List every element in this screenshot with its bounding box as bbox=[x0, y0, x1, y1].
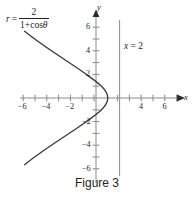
directrix-label: x = 2 bbox=[124, 42, 143, 52]
x-axis-label: x bbox=[184, 93, 188, 102]
equation-label: r = 2 1+cosθ bbox=[6, 7, 49, 30]
x-tick-label-neg2: −2 bbox=[65, 103, 74, 111]
y-tick-label-6: 6 bbox=[86, 23, 90, 31]
equation-denominator-prefix: 1+cos bbox=[20, 20, 43, 30]
equation-denominator: 1+cosθ bbox=[19, 19, 48, 30]
y-tick-label-2: 2 bbox=[86, 70, 90, 78]
x-tick-label-4: 4 bbox=[139, 103, 143, 111]
equation-fraction: 2 1+cosθ bbox=[19, 7, 48, 30]
x-tick-label-6: 6 bbox=[163, 103, 167, 111]
equation-lhs: r bbox=[6, 14, 10, 24]
directrix-value: = 2 bbox=[128, 41, 143, 51]
equation-numerator: 2 bbox=[27, 7, 40, 18]
equation-equals-sign: = bbox=[12, 14, 17, 24]
x-axis bbox=[20, 95, 185, 102]
x-tick-label-neg4: −4 bbox=[42, 103, 51, 111]
equation-denominator-variable: θ bbox=[43, 20, 48, 30]
figure-container: r = 2 1+cosθ x = 2 x y −6 −4 −2 4 6 6 4 … bbox=[0, 0, 194, 197]
x-tick-label-neg6: −6 bbox=[18, 103, 27, 111]
y-tick-label-neg2: −2 bbox=[82, 118, 91, 126]
y-tick-label-neg6: −6 bbox=[82, 165, 91, 173]
figure-caption: Figure 3 bbox=[0, 176, 194, 190]
y-tick-label-4: 4 bbox=[86, 47, 90, 55]
y-axis-label: y bbox=[97, 3, 101, 12]
y-tick-label-neg4: −4 bbox=[82, 141, 91, 149]
